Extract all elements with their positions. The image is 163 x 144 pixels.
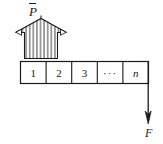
force-label-f: F xyxy=(145,127,152,139)
cell-label-3: 3 xyxy=(72,65,98,81)
load-label-text: P xyxy=(28,5,37,18)
load-arrow-p xyxy=(16,16,67,59)
cell-label-ellipsis: ··· xyxy=(97,65,123,81)
cell-label-1: 1 xyxy=(21,65,47,81)
load-label-p: P xyxy=(28,3,37,18)
figure-container: P F 1 2 3 ··· n xyxy=(0,0,163,144)
load-arrow-body xyxy=(16,19,67,59)
cell-label-2: 2 xyxy=(46,65,72,81)
cell-label-n: n xyxy=(123,65,149,81)
